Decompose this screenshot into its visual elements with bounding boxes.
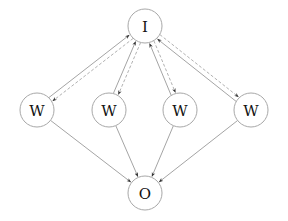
node-label: O — [139, 185, 151, 203]
node-label: W — [101, 102, 117, 120]
edge-i-to-w3 — [154, 41, 176, 93]
edges-layer — [49, 35, 239, 182]
edge-w4-to-o — [159, 120, 237, 181]
network-diagram: IWWWWO — [0, 0, 288, 221]
node-label: W — [29, 102, 45, 120]
node-label: W — [243, 102, 259, 120]
node-i: I — [128, 9, 162, 43]
edge-i-to-w4 — [160, 35, 239, 97]
node-w2: W — [92, 93, 126, 127]
node-o: O — [128, 176, 162, 210]
node-w1: W — [20, 93, 54, 127]
edge-w3-to-i — [150, 44, 172, 96]
nodes-layer: IWWWWO — [20, 9, 268, 210]
edge-w2-to-o — [116, 126, 138, 177]
diagram-canvas: IWWWWO — [0, 0, 288, 221]
edge-w1-to-i — [49, 35, 129, 98]
node-w4: W — [234, 93, 268, 127]
node-label: I — [142, 18, 148, 36]
edge-w1-to-o — [50, 120, 130, 182]
edge-w2-to-i — [113, 42, 135, 94]
edge-i-to-w1 — [53, 38, 133, 101]
edge-w3-to-o — [152, 126, 173, 177]
node-w3: W — [163, 93, 197, 127]
edge-i-to-w2 — [118, 43, 140, 95]
node-label: W — [172, 102, 188, 120]
